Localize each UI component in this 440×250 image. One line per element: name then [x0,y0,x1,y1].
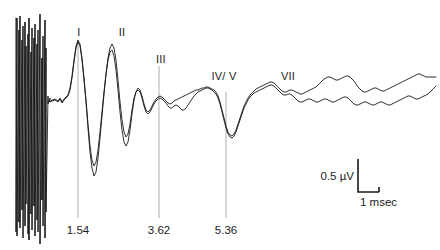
peak-label-ii: II [119,26,126,38]
peak-label-ivv: IV/ V [212,70,237,82]
time-scale-label: 1 msec [360,196,397,208]
abr-waveform-figure: IIIIIIIV/ VVII 1.543.625.36 0.5 µV 1 mse… [0,0,440,250]
peak-label-iii: III [156,53,166,65]
latency-value-label: 3.62 [148,224,170,236]
amplitude-scale-label: 0.5 µV [321,170,354,182]
peak-label-vii: VII [281,70,295,82]
peak-label-i: I [77,26,80,38]
waveform-trace-replicate [48,42,436,176]
calibration-scale-bar [358,159,379,192]
latency-value-label: 5.36 [215,224,237,236]
latency-value-label: 1.54 [67,224,89,236]
waveform-plot [0,0,440,250]
